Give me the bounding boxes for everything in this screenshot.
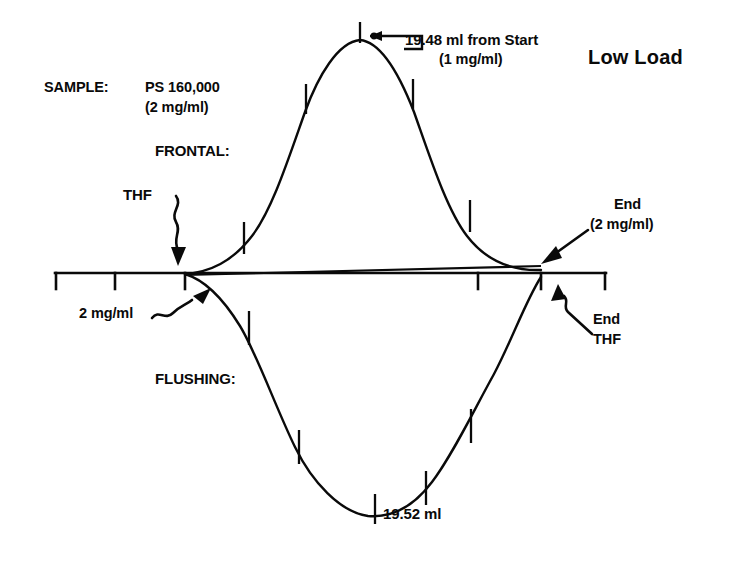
x-axis xyxy=(55,273,606,289)
trough-volume-label: 19.52 ml xyxy=(383,505,441,523)
flushing-section-label: FLUSHING: xyxy=(155,370,236,388)
end-arrow-shaft xyxy=(556,230,588,253)
peak-concentration-label: (1 mg/ml) xyxy=(439,51,503,68)
frontal-section-label: FRONTAL: xyxy=(155,142,230,160)
sample-name: PS 160,000 xyxy=(145,79,220,96)
flushing-curve xyxy=(185,274,541,516)
chromatogram-plot xyxy=(0,0,737,567)
sample-label: SAMPLE: xyxy=(44,79,109,96)
peak-leader-dot xyxy=(371,33,378,40)
end-thf-label-line2: THF xyxy=(593,331,621,348)
thf-arrow-squiggle xyxy=(174,196,178,250)
left-conc-arrow-head xyxy=(193,288,211,304)
end-arrow-head xyxy=(541,246,562,264)
end-concentration-label: (2 mg/ml) xyxy=(590,216,654,233)
sample-concentration: (2 mg/ml) xyxy=(145,99,209,116)
thf-label: THF xyxy=(123,186,152,204)
end-label: End xyxy=(614,196,641,213)
end-thf-label-line1: End xyxy=(593,311,620,328)
thf-arrow-head xyxy=(171,247,186,266)
page-title: Low Load xyxy=(588,46,683,70)
frontal-curve-ticks xyxy=(244,22,470,254)
chromatogram-figure: SAMPLE: PS 160,000 (2 mg/ml) FRONTAL: FL… xyxy=(0,0,737,567)
left-conc-arrow-squiggle xyxy=(152,300,192,318)
left-concentration-arrow xyxy=(152,288,211,318)
end-thf-arrow xyxy=(551,284,592,334)
end-thf-arrow-squiggle xyxy=(564,296,592,334)
frontal-curve xyxy=(185,40,541,274)
end-arrow xyxy=(541,230,588,264)
left-concentration-label: 2 mg/ml xyxy=(79,305,133,322)
end-thf-arrow-head xyxy=(551,284,566,301)
thf-arrow xyxy=(171,196,186,266)
peak-volume-label: 19.48 ml from Start xyxy=(405,31,538,49)
